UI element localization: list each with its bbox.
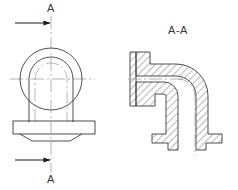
section-view-a-a: A-A (128, 24, 222, 156)
front-view-flange-plate (13, 121, 95, 134)
section-view-title: A-A (168, 24, 188, 36)
drawing-canvas: A A A-A (0, 0, 238, 190)
section-elbow-inner-wall (136, 82, 178, 150)
front-view-arch-inner (35, 63, 67, 122)
technical-drawing-svg: A A A-A (0, 0, 238, 190)
section-label-bottom: A (47, 173, 55, 185)
section-label-top: A (47, 2, 55, 14)
front-view (10, 48, 95, 141)
